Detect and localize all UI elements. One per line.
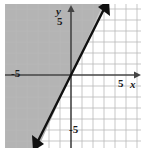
x-axis-tick-label-5: 5 xyxy=(118,78,124,89)
graph-figure: y 5 -5 -5 5 x xyxy=(0,0,148,156)
coordinate-plane: y 5 -5 -5 5 x xyxy=(5,4,141,148)
y-axis-tick-label-neg5: -5 xyxy=(69,124,78,135)
x-axis-label: x xyxy=(130,79,136,90)
x-axis-tick-label-neg5: -5 xyxy=(11,68,20,79)
y-axis-tick-label-5: 5 xyxy=(57,16,63,27)
